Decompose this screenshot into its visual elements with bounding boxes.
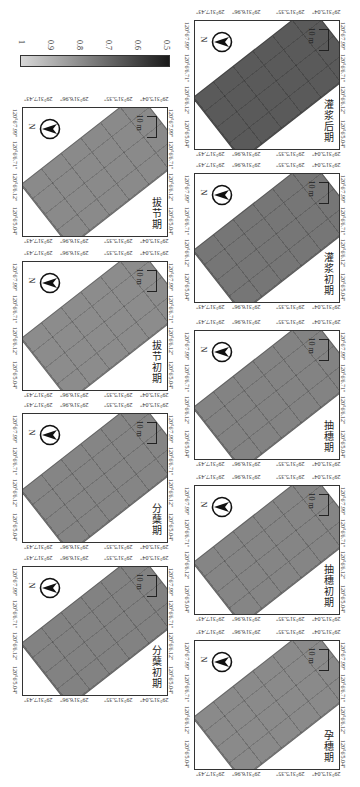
latitude-tick: 29°31'6.96": [232, 771, 260, 777]
longitude-tick: 120°6'6.12": [12, 479, 18, 507]
latitude-tick: 29°31'7.43": [196, 151, 224, 157]
latitude-tick: 29°31'5.04": [312, 162, 340, 168]
north-arrow-icon: [211, 341, 233, 363]
longitude-tick: 120°6'5.04": [184, 120, 190, 148]
colorbar-tick: 0.8: [75, 40, 84, 50]
north-label: N: [27, 278, 36, 284]
latitude-tick: 29°31'5.35": [276, 9, 304, 15]
latitude-tick: 29°31'5.35": [104, 250, 132, 256]
latitude-tick: 29°31'5.04": [312, 771, 340, 777]
latitude-tick: 29°31'7.43": [24, 250, 52, 256]
longitude-ticks-right: 120°6'5.04"120°6'6.12"120°6'6.71"120°6'7…: [340, 330, 350, 460]
latitude-tick: 29°31'5.35": [276, 771, 304, 777]
longitude-ticks-left: 120°6'5.04"120°6'6.12"120°6'6.71"120°6'7…: [12, 413, 22, 543]
scale-bar: [147, 422, 157, 444]
north-arrow-icon: [39, 272, 61, 294]
scale-bar: [147, 116, 157, 138]
latitude-ticks-top: 29°31'7.43"29°31'6.96"29°31'5.35"29°31'5…: [22, 96, 168, 106]
latitude-tick: 29°31'6.96": [232, 616, 260, 622]
latitude-tick: 29°31'7.43": [24, 392, 52, 398]
latitude-ticks-bottom: 29°31'7.43"29°31'6.96"29°31'5.35"29°31'5…: [194, 771, 340, 781]
latitude-tick: 29°31'5.35": [104, 392, 132, 398]
latitude-tick: 29°31'6.96": [60, 392, 88, 398]
latitude-tick: 29°31'5.04": [140, 250, 168, 256]
growth-stage-label: 拔节初期: [148, 340, 163, 384]
longitude-tick: 120°6'7.99": [184, 175, 190, 203]
longitude-tick: 120°6'6.71": [12, 600, 18, 628]
north-label: N: [27, 430, 36, 436]
north-arrow-icon: [39, 424, 61, 446]
map-frame: N 10 m 抽穗初期: [194, 485, 340, 615]
growth-stage-label: 拔节期: [148, 197, 163, 230]
longitude-tick: 120°6'7.99": [184, 332, 190, 360]
scale-label: 10 m: [306, 180, 315, 196]
scale-bar: [319, 649, 329, 671]
latitude-tick: 29°31'6.96": [232, 629, 260, 635]
longitude-tick: 120°6'6.12": [12, 327, 18, 355]
colorbar-tick: 0.9: [46, 40, 55, 50]
longitude-tick: 120°6'5.04": [12, 513, 18, 541]
longitude-tick: 120°6'6.12": [168, 479, 174, 507]
latitude-tick: 29°31'7.43": [24, 96, 52, 102]
longitude-ticks-left: 120°6'5.04"120°6'6.12"120°6'6.71"120°6'7…: [12, 261, 22, 391]
longitude-ticks-right: 120°6'5.04"120°6'6.12"120°6'6.71"120°6'7…: [168, 413, 178, 543]
latitude-tick: 29°31'6.96": [60, 555, 88, 561]
latitude-tick: 29°31'6.96": [232, 461, 260, 467]
longitude-tick: 120°6'6.12": [184, 86, 190, 114]
map-frame: N 10 m 拔节期: [22, 107, 168, 237]
longitude-tick: 120°6'7.99": [340, 22, 346, 50]
longitude-tick: 120°6'5.04": [340, 430, 346, 458]
longitude-ticks-right: 120°6'5.04"120°6'6.12"120°6'6.71"120°6'7…: [340, 640, 350, 770]
north-label: N: [199, 37, 208, 43]
latitude-tick: 29°31'6.96": [232, 319, 260, 325]
latitude-ticks-top: 29°31'7.43"29°31'6.96"29°31'5.35"29°31'5…: [194, 474, 340, 484]
north-label: N: [27, 124, 36, 130]
latitude-ticks-top: 29°31'7.43"29°31'6.96"29°31'5.35"29°31'5…: [194, 629, 340, 639]
longitude-tick: 120°6'7.99": [340, 332, 346, 360]
longitude-tick: 120°6'6.12": [12, 173, 18, 201]
longitude-ticks-left: 120°6'5.04"120°6'6.12"120°6'6.71"120°6'7…: [184, 173, 194, 303]
longitude-tick: 120°6'6.12": [184, 239, 190, 267]
longitude-tick: 120°6'5.04": [184, 740, 190, 768]
latitude-tick: 29°31'6.96": [60, 697, 88, 703]
map-panel: 29°31'7.43"29°31'6.96"29°31'5.35"29°31'5…: [22, 413, 168, 543]
latitude-tick: 29°31'5.04": [140, 697, 168, 703]
latitude-tick: 29°31'6.96": [232, 151, 260, 157]
north-label: N: [199, 190, 208, 196]
north-label: N: [199, 502, 208, 508]
map-frame: N 10 m 分蘖期: [22, 413, 168, 543]
longitude-tick: 120°6'6.71": [168, 447, 174, 475]
map-panel: 29°31'7.43"29°31'6.96"29°31'5.35"29°31'5…: [194, 330, 340, 460]
latitude-ticks-bottom: 29°31'7.43"29°31'6.96"29°31'5.35"29°31'5…: [194, 461, 340, 471]
latitude-tick: 29°31'5.04": [312, 474, 340, 480]
scale-label: 10 m: [134, 114, 143, 130]
latitude-tick: 29°31'7.43": [196, 9, 224, 15]
latitude-ticks-bottom: 29°31'7.43"29°31'6.96"29°31'5.35"29°31'5…: [194, 151, 340, 161]
longitude-tick: 120°6'7.99": [168, 568, 174, 596]
longitude-tick: 120°6'6.12": [184, 551, 190, 579]
north-arrow-icon: [211, 184, 233, 206]
growth-stage-label: 抽穗期: [320, 420, 335, 453]
longitude-tick: 120°6'6.71": [184, 674, 190, 702]
latitude-tick: 29°31'5.04": [140, 392, 168, 398]
growth-stage-label: 孕穗期: [320, 730, 335, 763]
growth-stage-label: 分蘖期: [148, 503, 163, 536]
longitude-tick: 120°6'5.04": [12, 207, 18, 235]
latitude-tick: 29°31'7.43": [196, 629, 224, 635]
latitude-ticks-bottom: 29°31'7.43"29°31'6.96"29°31'5.35"29°31'5…: [194, 616, 340, 626]
longitude-tick: 120°6'5.04": [184, 585, 190, 613]
latitude-tick: 29°31'5.04": [312, 461, 340, 467]
latitude-tick: 29°31'5.04": [312, 319, 340, 325]
scale-label: 10 m: [306, 647, 315, 663]
colorbar-tick: 0.6: [133, 40, 142, 50]
longitude-tick: 120°6'7.99": [184, 642, 190, 670]
longitude-tick: 120°6'5.04": [168, 207, 174, 235]
growth-stage-label: 分蘖初期: [148, 645, 163, 689]
longitude-tick: 120°6'6.12": [340, 551, 346, 579]
latitude-tick: 29°31'5.35": [276, 474, 304, 480]
longitude-tick: 120°6'6.12": [340, 396, 346, 424]
latitude-tick: 29°31'7.43": [196, 162, 224, 168]
colorbar: [20, 55, 170, 67]
latitude-tick: 29°31'5.35": [104, 402, 132, 408]
longitude-tick: 120°6'7.99": [340, 487, 346, 515]
